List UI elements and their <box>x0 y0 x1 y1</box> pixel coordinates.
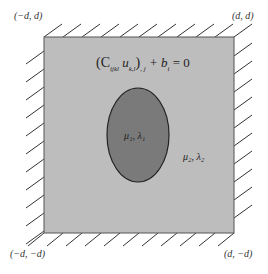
eq-part: u <box>119 55 129 70</box>
governing-equation: (Cijkl uk,l), j + bi = 0 <box>96 55 190 73</box>
hatch-top <box>44 24 252 37</box>
hatch-right <box>234 43 252 218</box>
eq-sub: ijkl <box>110 65 119 73</box>
eq-sub: k,l <box>129 65 136 73</box>
hatch-bottom <box>28 233 234 246</box>
matrix-material-label: μ₂, λ₂ <box>183 151 204 162</box>
inclusion-material-label: μ₁, λ₁ <box>124 130 145 141</box>
corner-label-top-left: (−d, d) <box>14 10 42 21</box>
corner-label-bottom-right: (d, −d) <box>224 248 252 259</box>
eq-part: + b <box>146 55 168 70</box>
hatch-left <box>26 51 44 244</box>
eq-part: (C <box>96 55 110 70</box>
corner-label-top-right: (d, d) <box>232 10 254 21</box>
corner-label-bottom-left: (−d, −d) <box>10 248 45 259</box>
eq-part: = 0 <box>169 55 189 70</box>
